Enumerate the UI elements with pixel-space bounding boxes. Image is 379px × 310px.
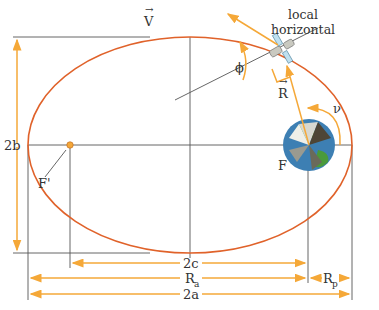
focal-distance-label: 2c — [183, 256, 199, 271]
orbit-diagram: V → ϕ R → ν local horizontal 2b F' F 2c … — [0, 0, 379, 310]
local-horizontal-label-1: local — [288, 7, 318, 22]
primary-focus-label: F — [278, 158, 287, 173]
major-axis-label: 2a — [183, 287, 199, 302]
empty-focus-label: F' — [38, 176, 51, 191]
velocity-label: V — [143, 14, 154, 29]
local-horizontal-label-2: horizontal — [271, 22, 335, 37]
minor-axis-label: 2b — [4, 138, 21, 153]
periapsis-radius-subscript: p — [332, 279, 338, 289]
nu-label: ν — [333, 101, 341, 116]
radius-label: R — [278, 86, 289, 101]
radius-vector-arrow-glyph: → — [279, 76, 288, 87]
empty-focus-dot — [67, 142, 73, 148]
phi-label: ϕ — [235, 60, 244, 75]
focus-empty-pointer — [45, 150, 66, 177]
velocity-vector-arrow-glyph: → — [145, 4, 154, 15]
